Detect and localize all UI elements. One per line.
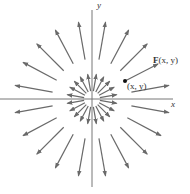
outer-arrow: [111, 134, 129, 168]
outer-arrow: [55, 134, 73, 168]
outer-arrow: [15, 85, 52, 92]
inner-arrow: [96, 77, 104, 92]
outer-arrow: [23, 118, 57, 136]
outer-arrow: [99, 138, 106, 175]
outer-arrow: [37, 44, 64, 71]
inner-arrow: [99, 87, 114, 95]
inner-arrow: [99, 103, 114, 111]
inner-arrow: [100, 95, 117, 98]
outer-arrow: [37, 127, 64, 154]
inner-arrow: [70, 103, 85, 111]
vector-label: F(x, y): [153, 56, 178, 65]
inner-arrow: [93, 74, 96, 91]
inner-arrow: [98, 105, 110, 117]
inner-arrow: [80, 77, 88, 92]
inner-arrow: [98, 81, 110, 93]
y-axis-label: y: [97, 1, 101, 10]
outer-arrow: [78, 22, 85, 59]
outer-arrow: [111, 30, 129, 64]
inner-arrow: [74, 105, 86, 117]
inner-arrow: [80, 106, 88, 121]
outer-arrow: [120, 44, 147, 71]
outer-arrow: [55, 30, 73, 64]
outer-arrow: [127, 118, 161, 136]
inner-arrow: [88, 107, 91, 124]
outer-arrow: [120, 127, 147, 154]
inner-arrow: [67, 95, 84, 98]
point-label: (x, y): [127, 82, 147, 91]
outer-arrow: [99, 22, 106, 59]
inner-arrow: [96, 106, 104, 121]
inner-arrow: [100, 100, 117, 103]
inner-arrow: [93, 107, 96, 124]
vector-field-diagram: [0, 0, 190, 194]
inner-arrow: [67, 100, 84, 103]
outer-arrow: [131, 106, 168, 113]
outer-arrow: [78, 138, 85, 175]
inner-arrow: [88, 74, 91, 91]
inner-arrow: [74, 81, 86, 93]
highlight-vector-arrow: [125, 64, 158, 81]
x-axis-label: x: [171, 100, 175, 109]
inner-arrow: [70, 87, 85, 95]
outer-arrow: [23, 62, 57, 80]
outer-arrow: [15, 106, 52, 113]
